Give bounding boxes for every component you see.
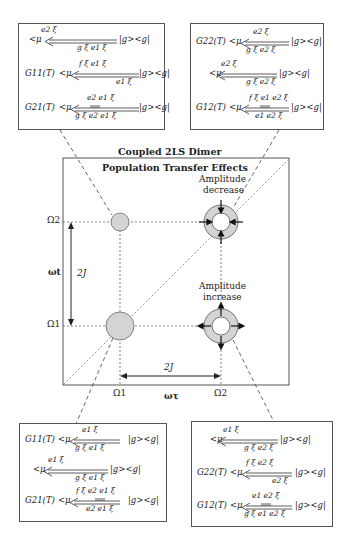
x-tick-omega1: Ω1 [113,388,126,398]
diagonal-line [64,160,288,384]
leader-bottom-right [233,340,274,422]
y-axis-label: ωt [48,267,61,277]
pathway-box-top-left: <μ e2 ξ g ξ e1 ξ |g><g| G11(T) <μ f ξ e1… [18,23,165,130]
diagram-title-line1: Coupled 2LS Dimer [118,146,221,157]
annotation-decrease: decrease [203,185,244,195]
peak-diag-lower [106,312,134,340]
annotation-amplitude: Amplitude [199,281,246,291]
x-axis-label: ωτ [164,391,179,401]
horizontal-splitting-label: 2J [164,362,173,372]
y-tick-omega1: Ω1 [47,319,60,329]
peak-cross-upper [111,213,129,231]
vertical-splitting-label: 2J [77,268,86,278]
diagram-title-line2: Population Transfer Effects [102,162,248,173]
annotation-increase: increase [203,292,242,302]
plot-frame [63,158,289,385]
x-tick-omega2: Ω2 [214,388,227,398]
pathway-box-bottom-right: <μ e1 ξ g ξ e2 ξ |g><g| G22(T) <μ f ξ e2… [191,421,333,527]
pathway-box-bottom-left: G11(T) <μ e1 ξ g ξ e1 ξ |g><g| <μ e1 ξ g… [19,423,167,522]
annotation-amplitude: Amplitude [199,174,246,184]
pathway-box-top-right: G22(T) <μ e2 ξ g ξ e2 ξ |g><g| <μ e2 ξ g… [190,23,324,130]
y-tick-omega2: Ω2 [47,215,60,225]
leader-bottom-left [76,338,113,424]
